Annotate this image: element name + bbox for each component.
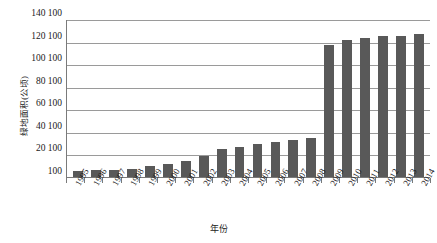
bar	[324, 45, 334, 177]
bar-slot	[266, 20, 284, 177]
bar	[414, 34, 424, 177]
bar	[396, 36, 406, 177]
y-axis-tick-label: 60 100	[10, 99, 62, 109]
bar	[342, 40, 352, 177]
bar-slot	[284, 20, 302, 177]
bar-slot	[338, 20, 356, 177]
bar-slot	[249, 20, 267, 177]
bar-slot	[195, 20, 213, 177]
y-axis-tick-label: 20 100	[10, 144, 62, 154]
bar-slot	[374, 20, 392, 177]
bar-slot	[356, 20, 374, 177]
y-axis-tick-labels: 10020 10040 10060 10080 100100 100120 10…	[10, 14, 62, 178]
plot-area	[66, 20, 430, 178]
bar	[360, 38, 370, 177]
bar	[378, 36, 388, 177]
y-axis-tick-label: 120 100	[10, 32, 62, 42]
y-axis-tick-label: 100	[10, 167, 62, 177]
bar-slot	[159, 20, 177, 177]
bar-slot	[123, 20, 141, 177]
bar-slot	[213, 20, 231, 177]
bar-slot	[410, 20, 428, 177]
bar-series	[67, 20, 430, 177]
y-axis-tick-label: 100 100	[10, 54, 62, 64]
bar-slot	[302, 20, 320, 177]
bar-slot	[177, 20, 195, 177]
bar-slot	[105, 20, 123, 177]
x-axis-tick-labels: 1995199619971998199920002001200220032004…	[66, 183, 430, 223]
bar-slot	[320, 20, 338, 177]
bar-slot	[141, 20, 159, 177]
bar-chart: 绿地面积(公顷) 10020 10040 10060 10080 100100 …	[0, 0, 437, 243]
y-axis-tick-label: 140 100	[10, 9, 62, 19]
bar-slot	[392, 20, 410, 177]
bar-slot	[69, 20, 87, 177]
x-axis-title: 年份	[0, 222, 437, 235]
y-axis-tick-label: 80 100	[10, 77, 62, 87]
bar-slot	[231, 20, 249, 177]
bar-slot	[87, 20, 105, 177]
y-axis-tick-label: 40 100	[10, 122, 62, 132]
